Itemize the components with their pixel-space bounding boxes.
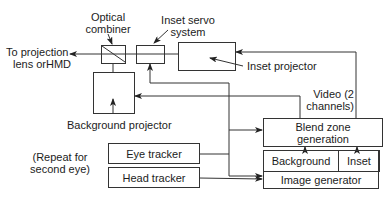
- head-tracker-box: Head tracker: [108, 167, 200, 188]
- optical-combiner-label-line1: Optical: [82, 11, 134, 23]
- inset-projector-box: [178, 42, 236, 71]
- to-projection-label: To projection lens orHMD: [6, 46, 71, 70]
- blend-zone-label-line2: generation: [264, 133, 382, 145]
- inset-servo-label: Inset servo system: [155, 14, 221, 38]
- background-channel-label: Background: [264, 155, 338, 167]
- repeat-label: (Repeat for second eye): [28, 151, 92, 175]
- eye-tracker-box: Eye tracker: [108, 143, 200, 164]
- image-generator-box: Background Inset Image generator: [263, 150, 379, 189]
- image-generator-label: Image generator: [264, 174, 378, 186]
- inset-channel-box: Inset: [338, 150, 380, 172]
- repeat-label-line1: (Repeat for: [28, 151, 92, 163]
- inset-servo-box: [136, 45, 165, 64]
- optical-combiner-label: Optical combiner: [82, 11, 134, 35]
- video-label-line1: Video (2: [300, 88, 354, 100]
- inset-projector-label: Inset projector: [247, 60, 317, 72]
- inset-servo-label-line1: Inset servo: [155, 14, 221, 26]
- background-projector-box: [93, 72, 135, 114]
- optical-combiner-label-line2: combiner: [82, 23, 134, 35]
- eye-tracker-label: Eye tracker: [109, 148, 199, 160]
- blend-zone-label-line1: Blend zone: [264, 121, 382, 133]
- to-projection-label-line1: To projection: [6, 46, 71, 58]
- background-channel-box: Background: [263, 150, 339, 172]
- video-label-line2: channels): [300, 100, 354, 112]
- optical-combiner-box: [101, 45, 126, 64]
- to-projection-label-line2: lens orHMD: [6, 58, 71, 70]
- inset-channel-label: Inset: [339, 155, 379, 167]
- video-label: Video (2 channels): [300, 88, 354, 112]
- repeat-label-line2: second eye): [28, 163, 92, 175]
- background-projector-label: Background projector: [67, 119, 172, 131]
- inset-servo-label-line2: system: [155, 26, 221, 38]
- blend-zone-box: Blend zone generation: [263, 118, 383, 147]
- head-tracker-label: Head tracker: [109, 172, 199, 184]
